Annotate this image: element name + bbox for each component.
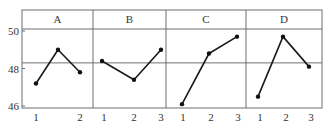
panel-header: C — [202, 13, 209, 25]
data-point — [78, 70, 82, 74]
y-tick-label: 46 — [8, 100, 20, 112]
x-tick-label: 2 — [131, 111, 137, 123]
data-point — [235, 34, 239, 38]
x-tick-label: 2 — [208, 111, 214, 123]
panel-header: A — [54, 13, 62, 25]
x-tick-label: 3 — [158, 111, 164, 123]
effect-line — [36, 50, 80, 84]
y-tick-label: 50 — [8, 25, 20, 37]
x-tick-label: 1 — [101, 111, 107, 123]
x-tick-label: 3 — [308, 111, 314, 123]
x-tick-label: 2 — [283, 111, 289, 123]
effect-line — [102, 50, 161, 80]
data-point — [159, 48, 163, 52]
x-tick-label: 3 — [235, 111, 241, 123]
data-point — [100, 59, 104, 63]
x-tick-label: 1 — [257, 111, 263, 123]
data-point — [281, 34, 285, 38]
chart-canvas: 464850A12B123C123D123 — [0, 0, 329, 132]
data-point — [307, 64, 311, 68]
x-tick-label: 1 — [180, 111, 186, 123]
x-tick-label: 2 — [77, 111, 83, 123]
data-point — [180, 102, 184, 106]
data-point — [34, 81, 38, 85]
data-point — [132, 78, 136, 82]
panel-header: B — [126, 13, 133, 25]
panel-header: D — [280, 13, 288, 25]
main-effects-chart: 464850A12B123C123D123 — [0, 0, 329, 132]
data-point — [207, 51, 211, 55]
x-tick-label: 1 — [33, 111, 39, 123]
y-tick-label: 48 — [8, 63, 20, 75]
data-point — [56, 48, 60, 52]
data-point — [256, 94, 260, 98]
effect-line — [258, 37, 309, 97]
effect-line — [182, 37, 237, 105]
